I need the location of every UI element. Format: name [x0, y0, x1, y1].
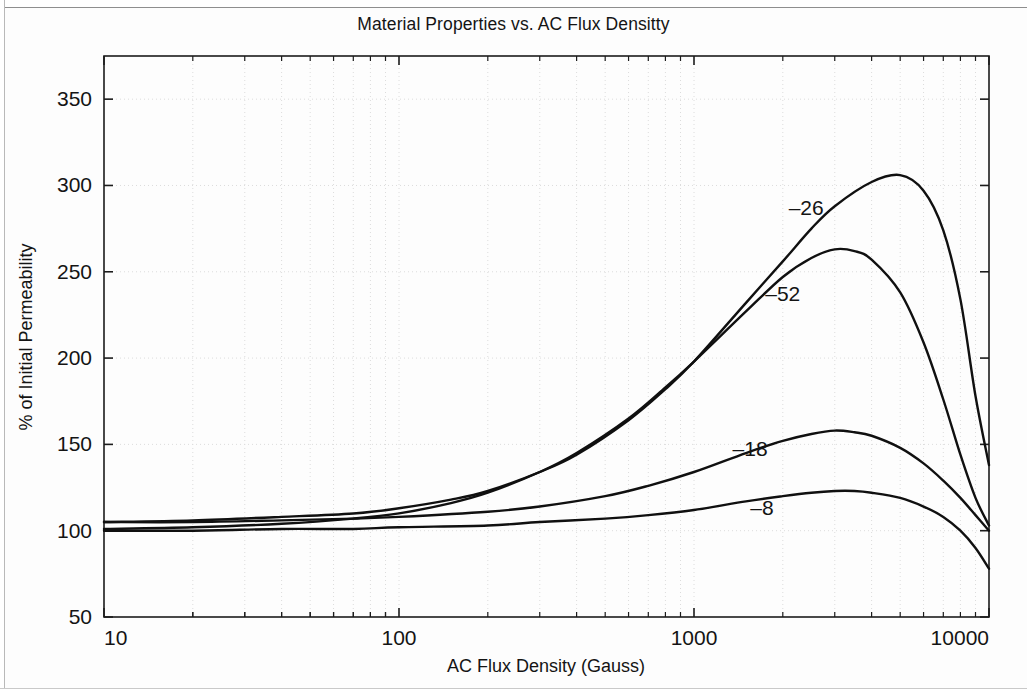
figure-canvas: Material Properties vs. AC Flux Densitty…: [0, 0, 1027, 695]
y-tick-label: 150: [57, 432, 92, 455]
axis-frame: [104, 56, 989, 617]
plot-area: –26–52–18–8 10100100010000 5010015020025…: [0, 0, 1027, 695]
y-tick-label: 350: [57, 87, 92, 110]
x-tick-label: 10: [104, 626, 127, 649]
curve-minus52: [104, 249, 989, 529]
y-tick-label: 300: [57, 173, 92, 196]
y-tick-label: 200: [57, 346, 92, 369]
axis-ticks: [104, 56, 989, 617]
x-tick-labels: 10100100010000: [104, 626, 989, 649]
y-tick-label: 250: [57, 260, 92, 283]
y-tick-label: 50: [69, 605, 92, 628]
x-tick-label: 100: [381, 626, 416, 649]
curve-label-minus52: –52: [765, 282, 800, 305]
y-tick-label: 100: [57, 519, 92, 542]
x-tick-label: 1000: [671, 626, 718, 649]
curve-label-minus8: –8: [750, 496, 773, 519]
y-axis-title: % of Initial Permeability: [16, 243, 36, 430]
gridlines: [104, 56, 989, 617]
x-axis-title: AC Flux Density (Gauss): [447, 656, 645, 676]
data-curves: [104, 175, 989, 569]
curve-label-minus26: –26: [789, 196, 824, 219]
x-tick-label: 10000: [931, 626, 989, 649]
y-tick-labels: 50100150200250300350: [57, 87, 92, 628]
curve-label-minus18: –18: [733, 437, 768, 460]
curve-minus18: [104, 431, 989, 531]
curve-labels: –26–52–18–8: [733, 196, 824, 519]
curve-minus8: [104, 491, 989, 569]
